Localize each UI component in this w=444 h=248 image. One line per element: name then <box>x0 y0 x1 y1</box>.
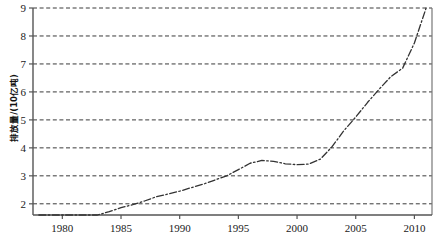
y-tick-label-9: 9 <box>21 2 27 14</box>
y-tick-label-3: 3 <box>21 170 27 182</box>
x-tick-label-1995: 1995 <box>227 222 250 234</box>
x-tick-label-2010: 2010 <box>403 222 426 234</box>
x-tick-label-2000: 2000 <box>286 222 309 234</box>
y-tick-label-5: 5 <box>21 114 27 126</box>
y-tick-label-6: 6 <box>21 86 27 98</box>
emissions-line-chart: 23456789 1980198519901995200020052010 排放… <box>0 0 444 248</box>
plot-background <box>33 8 432 215</box>
x-tick-label-1985: 1985 <box>110 222 133 234</box>
chart-canvas: 23456789 1980198519901995200020052010 <box>0 0 444 248</box>
x-tick-label-1980: 1980 <box>51 222 74 234</box>
x-tick-label-2005: 2005 <box>345 222 368 234</box>
y-tick-label-4: 4 <box>21 142 27 154</box>
y-tick-label-2: 2 <box>21 198 27 210</box>
x-tick-label-1990: 1990 <box>169 222 192 234</box>
y-ticks-group: 23456789 <box>21 2 34 210</box>
y-tick-label-7: 7 <box>21 58 27 70</box>
x-ticks-group: 1980198519901995200020052010 <box>51 215 426 234</box>
y-tick-label-8: 8 <box>21 30 27 42</box>
